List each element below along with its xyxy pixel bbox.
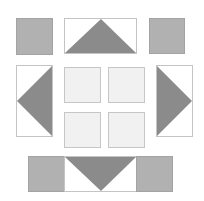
center-square-bottom-right [108,112,145,148]
right-triangle-icon [157,66,192,136]
top-right-gray-square [149,18,185,54]
top-left-gray-square [16,18,53,55]
left-triangle-icon [17,66,52,136]
center-square-bottom-left [64,112,101,148]
center-square-top-right [108,67,145,103]
top-center-triangle-block [64,18,137,54]
down-triangle-icon [65,157,136,191]
bottom-left-gray-square [28,156,65,192]
up-triangle-icon [65,19,136,53]
right-triangle-block [156,65,193,137]
bottom-right-gray-square [136,156,173,192]
left-triangle-block [16,65,53,137]
center-square-top-left [64,67,101,103]
bottom-center-triangle-block [64,156,137,192]
